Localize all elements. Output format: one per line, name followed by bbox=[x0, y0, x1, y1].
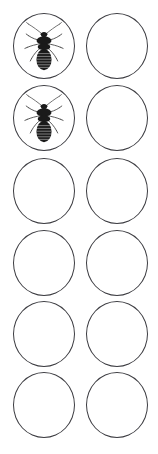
circle-row-4 bbox=[0, 230, 158, 296]
specimen-circle-outline bbox=[13, 372, 75, 438]
circle-cell-r1c2[interactable] bbox=[86, 13, 148, 79]
circle-row-6 bbox=[0, 372, 158, 438]
circle-cell-r2c1[interactable] bbox=[13, 85, 75, 151]
circle-cell-r6c1[interactable] bbox=[13, 372, 75, 438]
bug-pronotum bbox=[37, 36, 52, 44]
circle-cell-r6c2[interactable] bbox=[86, 372, 148, 438]
bug-body bbox=[36, 32, 51, 70]
circle-cell-r4c1[interactable] bbox=[13, 230, 75, 296]
circle-cell-r5c2[interactable] bbox=[86, 301, 148, 367]
specimen-circle-outline bbox=[86, 301, 148, 367]
bug-eye-right bbox=[46, 105, 48, 107]
bug-abdomen bbox=[36, 49, 51, 70]
specimen-circle-grid bbox=[0, 0, 158, 454]
circle-row-5 bbox=[0, 301, 158, 367]
specimen-circle-outline bbox=[13, 230, 75, 296]
bug-pronotum bbox=[37, 108, 52, 116]
specimen-circle-outline bbox=[13, 301, 75, 367]
bug-eye-right bbox=[46, 33, 48, 35]
bug-eye-left bbox=[41, 105, 43, 107]
bug-eye-left bbox=[41, 33, 43, 35]
circle-cell-r2c2[interactable] bbox=[86, 85, 148, 151]
bug-body bbox=[36, 104, 51, 142]
bug-abdomen bbox=[36, 121, 51, 142]
circle-row-2 bbox=[0, 85, 158, 151]
specimen-circle-outline bbox=[86, 372, 148, 438]
circle-cell-r1c1[interactable] bbox=[13, 13, 75, 79]
specimen-circle-outline bbox=[86, 85, 148, 151]
specimen-circle-outline bbox=[86, 158, 148, 224]
circle-cell-r3c1[interactable] bbox=[13, 158, 75, 224]
specimen-circle-outline bbox=[86, 230, 148, 296]
circle-cell-r5c1[interactable] bbox=[13, 301, 75, 367]
specimen-circle-outline bbox=[86, 13, 148, 79]
bed-bug-silhouette bbox=[13, 13, 75, 79]
circle-row-3 bbox=[0, 158, 158, 224]
specimen-circle-outline bbox=[13, 158, 75, 224]
bug-thorax bbox=[38, 116, 50, 122]
bug-thorax bbox=[38, 44, 50, 50]
bed-bug-silhouette bbox=[13, 85, 75, 151]
circle-cell-r4c2[interactable] bbox=[86, 230, 148, 296]
circle-row-1 bbox=[0, 13, 158, 79]
circle-cell-r3c2[interactable] bbox=[86, 158, 148, 224]
